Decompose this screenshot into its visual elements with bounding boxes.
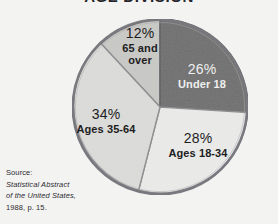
source-note-line-4: 1988, p. 15. [6,202,84,214]
slice-pct-ages-35-64: 34% [56,106,156,123]
chart-title-clipped: AGE DIVISION [0,0,278,7]
slice-label-65-and-over: 12% 65 and over [99,25,181,67]
slice-pct-ages-18-34: 28% [150,130,246,147]
slice-name-ages-35-64: Ages 35-64 [56,123,156,136]
chart-title: AGE DIVISION [0,0,278,5]
slice-name-65-and-over-line1: 65 and [99,42,181,55]
slice-name-under-18: Under 18 [160,78,244,91]
source-note-line-1: Source: [6,167,84,179]
slice-label-ages-35-64: 34% Ages 35-64 [56,106,156,135]
source-note-line-3: of the United States, [6,190,84,202]
pie-chart-figure: AGE DIVISION [0,0,278,224]
slice-name-65-and-over-line2: over [99,54,181,67]
slice-pct-65-and-over: 12% [99,25,181,42]
slice-name-ages-18-34: Ages 18-34 [150,147,246,160]
source-note-line-2: Statistical Abstract [6,179,84,191]
source-note: Source: Statistical Abstract of the Unit… [6,167,84,214]
slice-label-ages-18-34: 28% Ages 18-34 [150,130,246,159]
